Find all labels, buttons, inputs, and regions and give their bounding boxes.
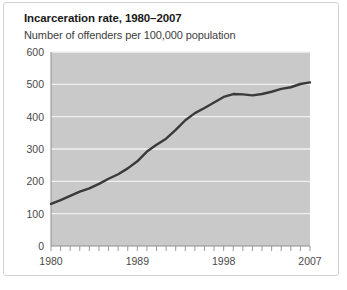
y-tick-label-100: 100 bbox=[26, 208, 44, 220]
x-axis-labels-group: 1980198919982007 bbox=[39, 255, 322, 267]
plot-area-wrapper: 0100200300400500600 1980198919982007 bbox=[0, 0, 347, 290]
y-tick-label-500: 500 bbox=[26, 78, 44, 90]
chart-figure: Incarceration rate, 1980–2007 Number of … bbox=[0, 0, 347, 290]
line-chart-svg: 0100200300400500600 1980198919982007 bbox=[0, 0, 347, 290]
y-axis-labels-group: 0100200300400500600 bbox=[26, 46, 44, 252]
y-tick-label-600: 600 bbox=[26, 46, 44, 58]
x-tick-marks-group bbox=[51, 246, 310, 251]
y-tick-label-0: 0 bbox=[38, 240, 44, 252]
y-tick-label-300: 300 bbox=[26, 143, 44, 155]
x-tick-label-1989: 1989 bbox=[126, 255, 150, 267]
x-tick-label-2007: 2007 bbox=[298, 255, 322, 267]
y-tick-label-400: 400 bbox=[26, 111, 44, 123]
x-tick-label-1998: 1998 bbox=[212, 255, 236, 267]
x-tick-label-1980: 1980 bbox=[39, 255, 63, 267]
y-tick-label-200: 200 bbox=[26, 175, 44, 187]
